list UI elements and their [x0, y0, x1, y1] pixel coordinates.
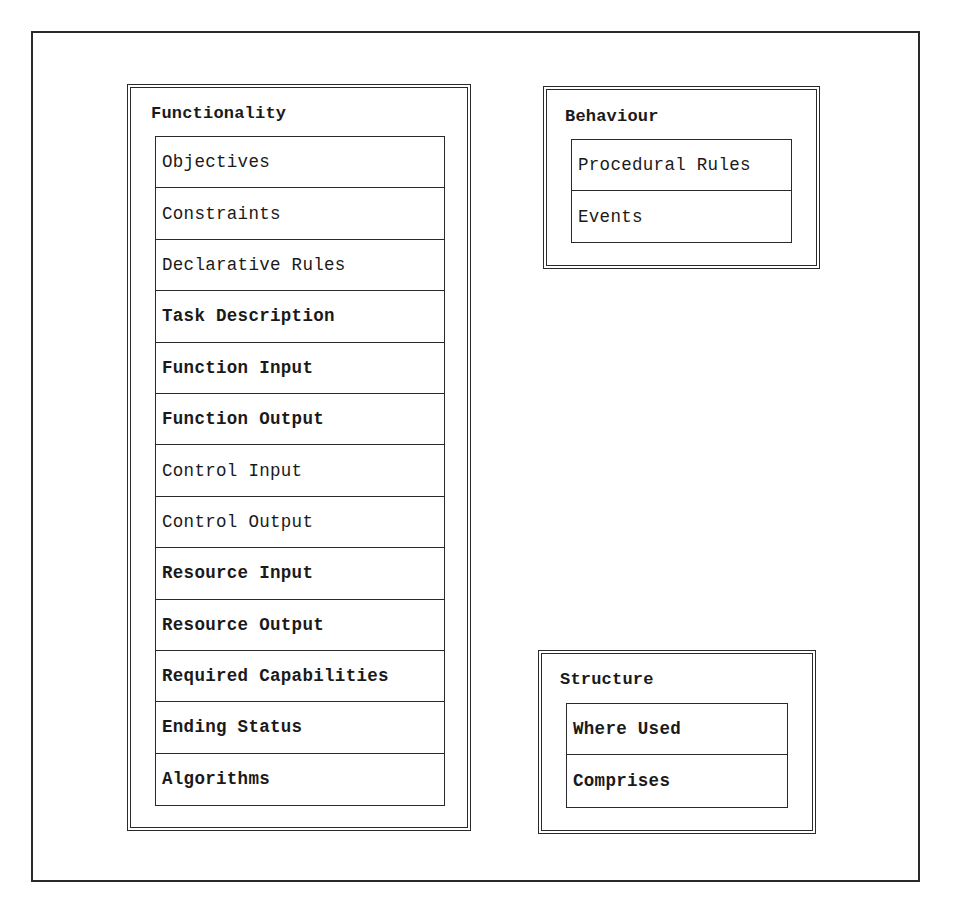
item-function-output: Function Output — [156, 394, 444, 445]
group-title-functionality: Functionality — [151, 104, 286, 123]
item-resource-output: Resource Output — [156, 600, 444, 651]
item-control-output: Control Output — [156, 497, 444, 548]
item-where-used: Where Used — [567, 704, 787, 755]
behaviour-item-list: Procedural Rules Events — [571, 139, 792, 243]
item-comprises: Comprises — [567, 755, 787, 806]
item-resource-input: Resource Input — [156, 548, 444, 599]
group-structure: Structure Where Used Comprises — [538, 650, 816, 834]
item-control-input: Control Input — [156, 445, 444, 496]
group-title-behaviour: Behaviour — [565, 107, 659, 126]
group-behaviour: Behaviour Procedural Rules Events — [543, 86, 820, 269]
item-declarative-rules: Declarative Rules — [156, 240, 444, 291]
item-procedural-rules: Procedural Rules — [572, 140, 791, 191]
item-constraints: Constraints — [156, 188, 444, 239]
item-task-description: Task Description — [156, 291, 444, 342]
group-title-structure: Structure — [560, 670, 654, 689]
item-events: Events — [572, 191, 791, 242]
item-required-capabilities: Required Capabilities — [156, 651, 444, 702]
item-function-input: Function Input — [156, 343, 444, 394]
item-objectives: Objectives — [156, 137, 444, 188]
item-ending-status: Ending Status — [156, 702, 444, 753]
group-functionality: Functionality Objectives Constraints Dec… — [127, 84, 471, 831]
functionality-item-list: Objectives Constraints Declarative Rules… — [155, 136, 445, 806]
structure-item-list: Where Used Comprises — [566, 703, 788, 808]
item-algorithms: Algorithms — [156, 754, 444, 805]
